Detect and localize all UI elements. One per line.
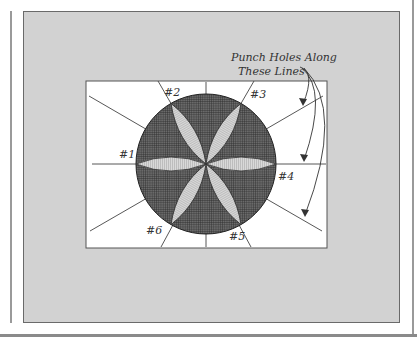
label-3: #3 xyxy=(250,88,266,101)
label-2: #2 xyxy=(164,86,180,99)
label-5: #5 xyxy=(229,230,245,243)
punch-holes-diagram: #1 #2 #3 #4 #5 #6 Punch Holes Along Thes… xyxy=(0,0,417,340)
label-1: #1 xyxy=(119,148,135,161)
label-4: #4 xyxy=(278,170,294,183)
callout-line-1: Punch Holes Along xyxy=(230,51,337,64)
callout-line-2: These Lines xyxy=(238,65,305,78)
label-6: #6 xyxy=(146,224,162,237)
